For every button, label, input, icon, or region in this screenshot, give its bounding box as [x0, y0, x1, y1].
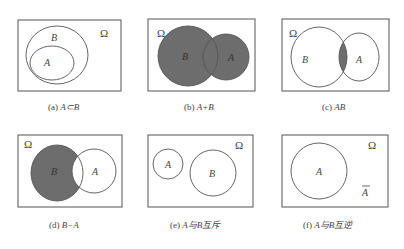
universe-label: Ω — [289, 27, 297, 39]
set-b-label: B — [51, 166, 57, 177]
set-b-label: B — [182, 51, 188, 62]
set-a-circle — [30, 46, 74, 80]
set-b-label: B — [302, 54, 308, 65]
panel-d-caption: (d) B−A — [49, 220, 79, 230]
panel-f-caption: (f) A与B互逆 — [303, 220, 354, 230]
set-a-label: A — [355, 54, 363, 65]
panel-d-difference: B A Ω (d) B−A — [18, 135, 122, 230]
set-a-label: A — [91, 166, 99, 177]
panel-c-intersection: B A Ω (c) AB — [282, 19, 389, 112]
set-a-label: A — [227, 52, 235, 63]
panel-f-complementary: A Ω A (f) A与B互逆 — [282, 135, 388, 230]
universe-label: Ω — [157, 27, 165, 39]
panel-c-caption: (c) AB — [322, 102, 346, 112]
panel-e-caption: (e) A与B互斥 — [170, 220, 221, 230]
venn-diagram-figure: B A Ω (a) A⊂B B A Ω (b) A+B B A Ω (c) AB… — [0, 0, 404, 249]
set-a-label: A — [315, 166, 323, 177]
panel-e-mutually-exclusive: A B Ω (e) A与B互斥 — [148, 135, 253, 230]
universe-label: Ω — [368, 139, 376, 151]
set-a-label: A — [43, 57, 51, 68]
set-a-label: A — [164, 159, 172, 170]
panel-a-caption: (a) A⊂B — [48, 102, 80, 112]
set-b-label: B — [209, 168, 215, 179]
set-b-label: B — [51, 32, 57, 43]
universe-frame — [282, 19, 389, 91]
complement-a-label: A — [361, 187, 369, 198]
panel-b-caption: (b) A+B — [184, 102, 214, 112]
panel-a-subset: B A Ω (a) A⊂B — [18, 20, 121, 112]
panel-b-union: B A Ω (b) A+B — [148, 19, 255, 112]
universe-label: Ω — [24, 138, 32, 150]
universe-label: Ω — [100, 27, 108, 39]
universe-label: Ω — [235, 139, 243, 151]
